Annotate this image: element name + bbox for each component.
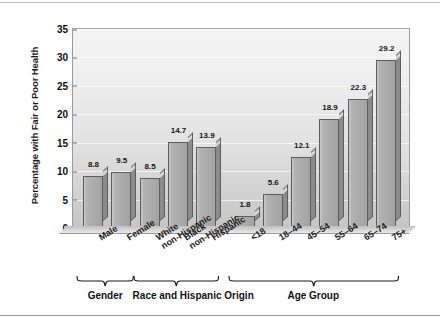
bar-value-label: 12.1 bbox=[294, 141, 310, 150]
x-axis-category-label: 55–64 bbox=[333, 234, 338, 242]
bar-side-face bbox=[311, 148, 316, 221]
y-axis-tick-label: 35 bbox=[57, 24, 73, 35]
bar-value-label: 22.3 bbox=[351, 83, 367, 92]
x-axis-label-line: 18–44 bbox=[277, 234, 282, 242]
bar-series: 8.89.58.514.713.91.85.612.118.922.329.2 bbox=[73, 29, 409, 226]
bar-front-face bbox=[319, 119, 339, 226]
y-axis-tick-label: 10 bbox=[57, 166, 73, 177]
group-label: Gender bbox=[76, 290, 134, 301]
bar-front-face bbox=[263, 194, 283, 226]
bar-value-label: 29.2 bbox=[379, 44, 395, 53]
x-axis-label-line: 75+ bbox=[390, 234, 395, 242]
bar-front-face bbox=[376, 60, 396, 226]
x-axis-label-line: White bbox=[154, 234, 159, 242]
x-axis-category-label: 75+ bbox=[390, 234, 395, 242]
x-axis-category-label: Blacknon-Hispanic bbox=[182, 234, 193, 251]
chart-figure: Percentage with Fair or Poor Health 0510… bbox=[0, 0, 440, 322]
bar-side-face bbox=[339, 109, 344, 221]
x-axis-label-line: 65–74 bbox=[362, 234, 367, 242]
bar: 14.7 bbox=[168, 142, 188, 226]
bar: 8.8 bbox=[83, 176, 103, 226]
bar-side-face bbox=[368, 90, 373, 221]
bar: 29.2 bbox=[376, 60, 396, 226]
bar-value-label: 13.9 bbox=[199, 131, 215, 140]
x-axis-label-line: non-Hispanic bbox=[159, 242, 164, 250]
bar-value-label: 18.9 bbox=[322, 103, 338, 112]
group-bracket bbox=[76, 276, 134, 287]
x-axis-category-label: 65–74 bbox=[362, 234, 367, 242]
bottom-divider-rule bbox=[0, 315, 440, 316]
x-axis-category-label: 18–44 bbox=[277, 234, 282, 242]
x-axis-label-line: Female bbox=[125, 234, 130, 242]
y-axis-tick-label: 5 bbox=[62, 194, 73, 205]
x-axis-category-label: 45–54 bbox=[305, 234, 310, 242]
bar: 12.1 bbox=[291, 157, 311, 226]
y-axis-tick-label: 20 bbox=[57, 109, 73, 120]
plot-area: 05101520253035 8.89.58.514.713.91.85.612… bbox=[72, 28, 410, 227]
x-axis-label-line: Male bbox=[97, 234, 102, 242]
bar-value-label: 5.6 bbox=[268, 178, 279, 187]
y-axis-tick-label: 15 bbox=[57, 137, 73, 148]
x-axis-category-label: Male bbox=[97, 234, 102, 242]
bar-side-face bbox=[188, 133, 193, 221]
bar-front-face bbox=[168, 142, 188, 226]
bar-front-face bbox=[348, 99, 368, 226]
y-axis-tick-label: 30 bbox=[57, 52, 73, 63]
group-bracket bbox=[133, 276, 220, 287]
bar-front-face bbox=[111, 172, 131, 226]
bar-value-label: 8.5 bbox=[144, 162, 155, 171]
bar-value-label: 8.8 bbox=[88, 160, 99, 169]
bar-value-label: 9.5 bbox=[116, 156, 127, 165]
x-axis-label-line: 45–54 bbox=[305, 234, 310, 242]
x-axis-label-line: 55–64 bbox=[333, 234, 338, 242]
y-axis-title: Percentage with Fair or Poor Health bbox=[29, 26, 40, 226]
bar-front-face bbox=[83, 176, 103, 226]
top-divider-rule bbox=[0, 2, 440, 3]
bar-side-face bbox=[216, 137, 221, 221]
group-bracket bbox=[228, 276, 400, 287]
bar: 22.3 bbox=[348, 99, 368, 226]
bar-front-face bbox=[291, 157, 311, 226]
x-axis-category-label: Whitenon-Hispanic bbox=[154, 234, 165, 251]
group-label: Race and Hispanic Origin bbox=[133, 290, 220, 301]
x-axis-category-label: <18 bbox=[249, 234, 254, 242]
bar-side-face bbox=[131, 162, 136, 221]
x-axis-label-line: <18 bbox=[249, 234, 254, 242]
y-axis-tick-label: 25 bbox=[57, 80, 73, 91]
group-label: Age Group bbox=[228, 290, 400, 301]
bar-value-label: 14.7 bbox=[171, 126, 187, 135]
x-axis-category-label: Female bbox=[125, 234, 130, 242]
bar-side-face bbox=[396, 50, 401, 221]
bar-value-label: 1.8 bbox=[239, 200, 250, 209]
bar: 9.5 bbox=[111, 172, 131, 226]
bar: 18.9 bbox=[319, 119, 339, 226]
x-axis-label-line: non-Hispanic bbox=[187, 242, 192, 250]
bar: 5.6 bbox=[263, 194, 283, 226]
